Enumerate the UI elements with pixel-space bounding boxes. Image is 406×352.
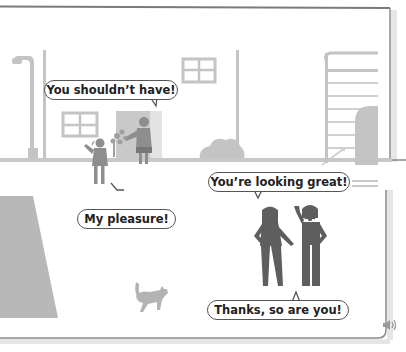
- right-building: [322, 53, 378, 165]
- speaker-icon[interactable]: [382, 318, 398, 332]
- speech-bubble-my-pleasure: My pleasure!: [77, 209, 176, 229]
- speech-bubble-you-shouldnt-have: You shouldn’t have!: [44, 80, 178, 100]
- speech-bubble-thanks-so-are-you: Thanks, so are you!: [207, 300, 349, 320]
- speech-bubble-youre-looking-great: You’re looking great!: [208, 172, 350, 192]
